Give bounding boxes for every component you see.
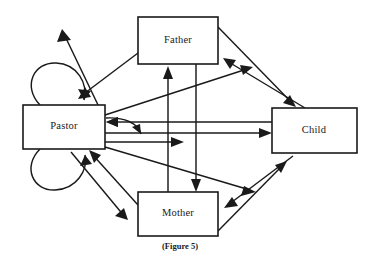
node-mother-label: Mother bbox=[162, 207, 194, 218]
node-pastor[interactable]: Pastor bbox=[23, 105, 105, 149]
pastor-loop-right bbox=[106, 117, 141, 134]
node-mother[interactable]: Mother bbox=[138, 192, 218, 236]
pastor-loop-upper bbox=[31, 63, 91, 105]
arrowhead-mother-to-father bbox=[163, 66, 173, 79]
arrowhead-pastor-to-father bbox=[57, 29, 71, 42]
arrowhead-child-to-father bbox=[223, 58, 236, 69]
arrowhead-pastor-to-mother bbox=[115, 208, 128, 220]
edge-pastor-to-child-upper bbox=[105, 65, 253, 115]
edge-pastor-to-father bbox=[57, 29, 99, 107]
edge-child-to-father bbox=[223, 58, 305, 108]
edge-father-to-pastor bbox=[78, 53, 138, 99]
arrowhead-father-to-mother bbox=[191, 179, 201, 192]
figure-diagram: Father Pastor Child Mother (Figure 5) bbox=[0, 0, 373, 264]
arrowhead-pastor-inner-short bbox=[171, 137, 184, 147]
edge-pastor-inner-short bbox=[105, 137, 184, 147]
node-child-label: Child bbox=[302, 124, 327, 135]
arrowhead-pastor-to-child bbox=[259, 128, 272, 138]
node-child[interactable]: Child bbox=[272, 108, 357, 153]
edge-mother-to-child bbox=[218, 161, 287, 231]
diagram-canvas: Father Pastor Child Mother (Figure 5) bbox=[0, 0, 373, 264]
node-pastor-label: Pastor bbox=[50, 120, 78, 131]
figure-caption: (Figure 5) bbox=[162, 241, 198, 251]
edge-pastor-to-child-lower bbox=[105, 147, 256, 196]
edge-pastor-to-child bbox=[105, 128, 272, 138]
edge-mother-to-father bbox=[163, 66, 173, 192]
node-father-label: Father bbox=[164, 34, 192, 45]
node-father[interactable]: Father bbox=[138, 17, 218, 64]
pastor-loop-lower bbox=[31, 149, 92, 190]
edge-mother-to-pastor bbox=[89, 150, 138, 205]
